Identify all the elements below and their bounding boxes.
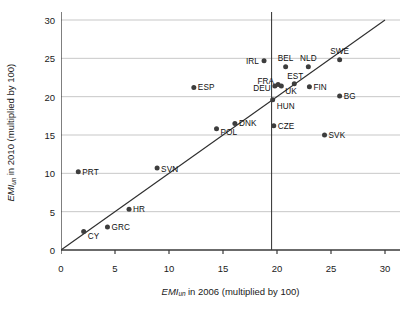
data-point-marker <box>232 121 237 126</box>
data-point-marker <box>307 84 312 89</box>
y-tick-label: 5 <box>33 206 55 217</box>
point-label-hun: HUN <box>277 101 295 110</box>
x-tick-label: 25 <box>316 263 346 274</box>
point-label-pol: POL <box>221 127 238 136</box>
data-point-marker <box>271 123 276 128</box>
point-label-dnk: DNK <box>239 118 257 127</box>
x-axis-title-suffix: in 2006 (multiplied by 100) <box>185 286 299 297</box>
point-label-irl: IRL <box>246 56 259 65</box>
x-axis-title: EMIun in 2006 (multiplied by 100) <box>61 286 400 297</box>
data-point-marker <box>306 64 311 69</box>
x-tick-label: 15 <box>208 263 238 274</box>
y-axis-title-subscript: un <box>10 178 17 185</box>
y-axis-title-suffix: in 2010 (multiplied by 100) <box>5 64 16 178</box>
y-tick-label: 20 <box>33 91 55 102</box>
data-point-marker <box>270 97 275 102</box>
point-label-esp: ESP <box>198 83 215 92</box>
point-label-fra: FRA <box>257 77 274 86</box>
x-tick-label: 5 <box>100 263 130 274</box>
plot-area: PRTCYGRCHRSVNESPPOLDNKIRLHUNCZEDEUFRAUKB… <box>61 12 400 258</box>
x-tick-label: 20 <box>262 263 292 274</box>
data-point-marker <box>292 81 297 86</box>
point-label-svk: SVK <box>329 131 346 140</box>
data-point-marker <box>127 207 132 212</box>
point-label-prt: PRT <box>82 167 99 176</box>
data-point-marker <box>279 83 284 88</box>
point-label-hr: HR <box>133 205 145 214</box>
y-tick-label: 0 <box>33 245 55 256</box>
data-point-marker <box>262 58 267 63</box>
y-tick-label: 25 <box>33 53 55 64</box>
point-label-swe: SWE <box>330 46 349 55</box>
point-label-grc: GRC <box>111 223 130 232</box>
point-label-bg: BG <box>344 91 356 100</box>
x-tick-label: 0 <box>46 263 76 274</box>
data-point-marker <box>191 85 196 90</box>
data-point-marker <box>214 126 219 131</box>
data-point-marker <box>105 225 110 230</box>
data-point-marker <box>155 165 160 170</box>
point-label-cy: CY <box>88 231 100 240</box>
data-point-marker <box>76 169 81 174</box>
point-label-bel: BEL <box>278 53 294 62</box>
x-tick-label: 10 <box>154 263 184 274</box>
point-label-fin: FIN <box>313 82 327 91</box>
scatter-plot-figure: EMIun in 2010 (multiplied by 100) 051015… <box>0 0 419 310</box>
x-axis-tick-labels: 051015202530 <box>61 263 400 277</box>
y-tick-label: 30 <box>33 15 55 26</box>
data-point-marker <box>322 133 327 138</box>
data-point-marker <box>337 93 342 98</box>
x-tick-label: 30 <box>370 263 400 274</box>
point-label-est: EST <box>287 71 303 80</box>
x-axis-title-prefix: EMI <box>162 286 179 297</box>
data-point-marker <box>283 64 288 69</box>
y-tick-label: 15 <box>33 130 55 141</box>
point-label-svn: SVN <box>161 164 178 173</box>
y-axis-title-prefix: EMI <box>5 185 16 202</box>
data-point-marker <box>337 57 342 62</box>
point-label-uk: UK <box>285 86 297 95</box>
y-tick-label: 10 <box>33 168 55 179</box>
data-point-marker <box>81 229 86 234</box>
point-label-nld: NLD <box>300 53 317 62</box>
y-axis-title: EMIun in 2010 (multiplied by 100) <box>0 0 22 266</box>
y-axis-tick-labels: 051015202530 <box>31 12 55 258</box>
point-label-cze: CZE <box>278 121 295 130</box>
